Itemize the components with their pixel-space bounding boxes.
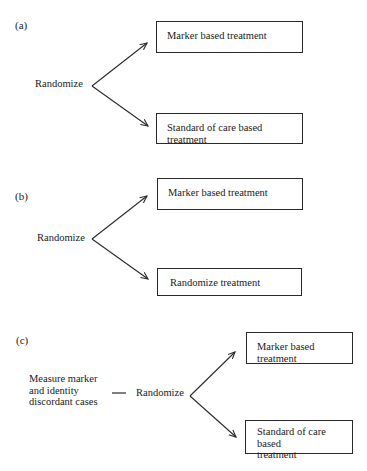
randomize-label-b: Randomize xyxy=(37,232,85,244)
arm-text-standard-a: Standard of care based treatment xyxy=(167,122,262,145)
panel-label-a: (a) xyxy=(15,19,27,31)
arm-text-standard-c-line-2: treatment xyxy=(257,449,352,461)
pre-step-line-1: Measure marker xyxy=(29,373,109,385)
arm-box-standard-a: Standard of care based treatment xyxy=(156,113,303,144)
arm-box-marker-b: Marker based treatment xyxy=(157,178,303,210)
arrow-b-up xyxy=(92,196,147,239)
arm-text-standard-c-line-1: Standard of care based xyxy=(257,426,352,449)
arm-text-marker-b: Marker based treatment xyxy=(168,187,268,198)
randomize-label-c: Randomize xyxy=(136,387,184,399)
arm-text-randomize-b: Randomize treatment xyxy=(170,277,260,288)
arrow-c-down xyxy=(190,396,236,437)
arrow-a-down xyxy=(92,86,148,126)
arrow-c-up xyxy=(190,352,235,396)
panel-b-arrows xyxy=(92,196,148,279)
arm-box-marker-c: Marker based treatment xyxy=(246,332,353,364)
panel-label-b: (b) xyxy=(15,190,28,202)
arm-box-standard-c: Standard of care based treatment xyxy=(245,420,353,454)
arm-text-marker-c: Marker based treatment xyxy=(257,341,314,364)
pre-step-line-3: discordant cases xyxy=(29,396,109,408)
arm-box-randomize-b: Randomize treatment xyxy=(157,268,302,296)
panel-label-c: (c) xyxy=(16,334,28,346)
arrow-b-down xyxy=(92,239,148,279)
randomize-label-a: Randomize xyxy=(35,78,83,90)
panel-a-arrows xyxy=(92,43,148,126)
arm-text-marker-a: Marker based treatment xyxy=(167,30,267,41)
pre-step-line-2: and identity xyxy=(29,385,109,397)
arm-box-marker-a: Marker based treatment xyxy=(156,21,303,53)
arrow-a-up xyxy=(92,43,147,86)
pre-step-text: Measure marker and identity discordant c… xyxy=(29,373,109,408)
